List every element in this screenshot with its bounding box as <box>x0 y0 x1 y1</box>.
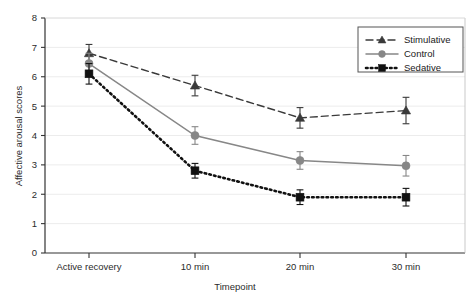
square-marker <box>85 70 93 78</box>
y-tick-label: 6 <box>32 71 37 82</box>
circle-marker <box>191 132 199 140</box>
square-marker <box>191 167 199 175</box>
square-marker <box>402 193 410 201</box>
y-axis-title: Affective arousal scores <box>13 85 24 186</box>
square-marker <box>379 65 386 72</box>
x-axis-title: Timepoint <box>214 281 256 292</box>
x-tick-label: 20 min <box>286 261 315 272</box>
y-tick-label: 1 <box>32 218 37 229</box>
y-tick-label: 7 <box>32 42 37 53</box>
circle-marker <box>402 162 410 170</box>
y-tick-label: 2 <box>32 189 37 200</box>
chart-legend: StimulativeControlSedative <box>358 27 463 73</box>
circle-marker <box>379 51 386 58</box>
y-tick-label: 4 <box>32 130 37 141</box>
legend-label: Sedative <box>404 62 441 73</box>
x-tick-label: 10 min <box>181 261 210 272</box>
circle-marker <box>296 156 304 164</box>
y-axis-ticks: 012345678 <box>32 12 45 258</box>
chart-figure: 012345678 Active recovery10 min20 min30 … <box>0 0 471 299</box>
x-tick-label: 30 min <box>392 261 421 272</box>
y-tick-label: 0 <box>32 247 37 258</box>
y-tick-label: 8 <box>32 12 37 23</box>
x-tick-label: Active recovery <box>57 261 122 272</box>
y-tick-label: 5 <box>32 101 37 112</box>
y-tick-label: 3 <box>32 159 37 170</box>
legend-label: Control <box>404 48 435 59</box>
affective-arousal-line-chart: 012345678 Active recovery10 min20 min30 … <box>0 0 471 299</box>
legend-label: Stimulative <box>404 34 450 45</box>
x-axis-ticks: Active recovery10 min20 min30 min <box>57 253 421 272</box>
square-marker <box>296 193 304 201</box>
